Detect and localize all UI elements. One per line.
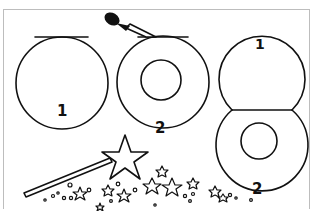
circle-step-1: 1 [16,37,108,129]
match-stick-icon [102,10,156,37]
illustration: 1 2 1 2 [0,0,315,211]
step-2-label: 2 [155,119,165,137]
figure-eight-bottom: 2 [216,110,308,198]
figure-eight-bottom-label: 2 [252,180,262,198]
figure-eight-top: 1 [219,36,305,110]
star-wand-icon [24,135,148,197]
step-1-label: 1 [57,102,67,120]
figure-eight-top-label: 1 [255,36,265,52]
circle-step-2: 2 [117,36,209,137]
